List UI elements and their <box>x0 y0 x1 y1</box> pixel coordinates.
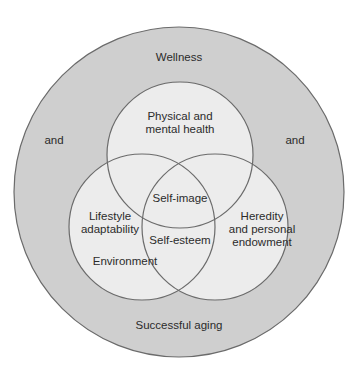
label-self-esteem: Self-esteem <box>144 234 216 247</box>
label-line: Lifestyle <box>70 210 150 223</box>
label-wellness: Wellness <box>139 51 219 64</box>
label-line: mental health <box>130 123 230 136</box>
label-physical-mental-health: Physical and mental health <box>130 110 230 136</box>
label-lifestyle-adaptability: Lifestyle adaptability <box>70 210 150 236</box>
label-line: Heredity <box>222 210 302 223</box>
label-and-right: and <box>283 134 307 147</box>
label-line: and personal <box>222 223 302 236</box>
label-line: endowment <box>222 236 302 249</box>
label-line: Physical and <box>130 110 230 123</box>
label-environment: Environment <box>80 255 170 268</box>
label-and-left: and <box>42 134 66 147</box>
label-successful-aging: Successful aging <box>124 319 234 332</box>
label-heredity: Heredity and personal endowment <box>222 210 302 249</box>
label-self-image: Self-image <box>144 192 216 205</box>
label-line: adaptability <box>70 223 150 236</box>
